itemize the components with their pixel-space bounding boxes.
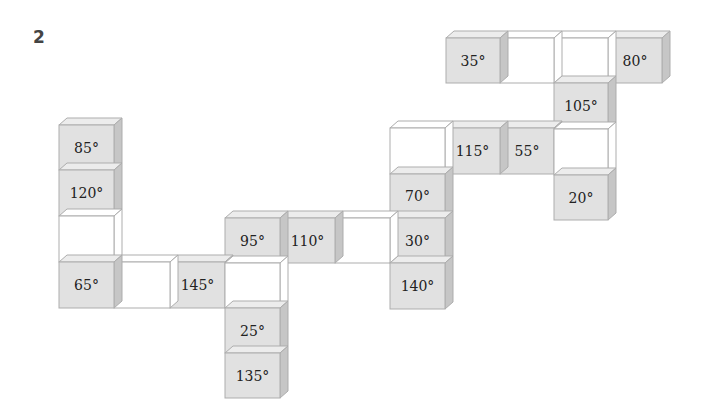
angle-cube: 95° bbox=[225, 211, 288, 263]
cube-top-face bbox=[59, 255, 122, 262]
cube-top-face bbox=[390, 121, 453, 128]
cube-top-face bbox=[608, 31, 670, 38]
angle-label: 110° bbox=[291, 233, 325, 249]
angle-label: 140° bbox=[401, 278, 435, 294]
cube-top-face bbox=[445, 121, 508, 128]
angle-cube: 135° bbox=[225, 346, 288, 398]
angle-label: 25° bbox=[240, 323, 265, 339]
blank-cube bbox=[554, 122, 616, 175]
angle-label: 95° bbox=[240, 233, 265, 249]
cube-side-face bbox=[608, 122, 616, 175]
cube-side-face bbox=[500, 121, 508, 174]
blank-cube bbox=[335, 211, 398, 263]
cube-top-face bbox=[59, 209, 122, 216]
cube-top-face bbox=[225, 256, 288, 263]
angle-label: 135° bbox=[236, 368, 270, 384]
cube-side-face bbox=[445, 121, 453, 174]
cube-side-face bbox=[390, 211, 398, 263]
angle-cube: 85° bbox=[59, 118, 122, 170]
cube-top-face bbox=[554, 76, 616, 83]
cube-top-face bbox=[225, 301, 288, 308]
blank-cube bbox=[500, 31, 562, 83]
cube-top-face bbox=[225, 346, 288, 353]
cube-side-face bbox=[280, 256, 288, 308]
angle-cube: 65° bbox=[59, 255, 122, 308]
cube-side-face bbox=[170, 255, 178, 308]
cube-side-face bbox=[114, 255, 122, 308]
angle-label: 115° bbox=[456, 143, 490, 159]
cube-side-face bbox=[445, 211, 453, 263]
angle-label: 20° bbox=[569, 190, 594, 206]
angle-label: 80° bbox=[623, 53, 648, 69]
cube-side-face bbox=[280, 211, 288, 263]
cube-top-face bbox=[59, 163, 122, 170]
angle-cube: 25° bbox=[225, 301, 288, 353]
cube-top-face bbox=[225, 211, 288, 218]
angle-cube: 110° bbox=[280, 211, 343, 263]
cube-top-face bbox=[280, 211, 343, 218]
cube-top-face bbox=[554, 168, 616, 175]
angle-cube: 115° bbox=[445, 121, 508, 174]
blank-cube bbox=[554, 31, 616, 83]
cube-top-face bbox=[335, 211, 398, 218]
angle-label: 120° bbox=[70, 185, 104, 201]
cube-side-face bbox=[114, 209, 122, 262]
angle-label: 55° bbox=[515, 143, 540, 159]
cube-top-face bbox=[500, 31, 562, 38]
angle-cube: 140° bbox=[390, 256, 453, 309]
angle-cube: 80° bbox=[608, 31, 670, 83]
cube-side-face bbox=[608, 168, 616, 220]
cube-top-face bbox=[114, 255, 178, 262]
blank-cube bbox=[390, 121, 453, 174]
angle-cube: 35° bbox=[446, 31, 508, 83]
cube-side-face bbox=[608, 31, 616, 83]
angle-cube: 20° bbox=[554, 168, 616, 220]
angle-label: 35° bbox=[461, 53, 486, 69]
cube-net-diagram: 80°35°105°85°55°115°120°70°20°30°110°95°… bbox=[0, 0, 710, 417]
angle-label: 65° bbox=[74, 277, 99, 293]
angle-cube: 55° bbox=[500, 121, 562, 174]
cube-side-face bbox=[280, 346, 288, 398]
angle-cube: 70° bbox=[390, 167, 453, 218]
cube-top-face bbox=[390, 167, 453, 174]
angle-label: 30° bbox=[405, 233, 430, 249]
cube-top-face bbox=[390, 256, 453, 263]
angle-label: 70° bbox=[405, 188, 430, 204]
angle-label: 85° bbox=[74, 140, 99, 156]
angle-cube: 105° bbox=[554, 76, 616, 129]
cube-side-face bbox=[500, 31, 508, 83]
cube-side-face bbox=[114, 118, 122, 170]
cube-side-face bbox=[445, 256, 453, 309]
cube-top-face bbox=[554, 31, 616, 38]
cube-top-face bbox=[554, 122, 616, 129]
blank-cube bbox=[225, 256, 288, 308]
cube-side-face bbox=[662, 31, 670, 83]
blank-cube bbox=[114, 255, 178, 308]
cube-side-face bbox=[608, 76, 616, 129]
angle-cube: 120° bbox=[59, 163, 122, 216]
angle-cube: 145° bbox=[170, 255, 233, 308]
cube-side-face bbox=[114, 163, 122, 216]
angle-label: 145° bbox=[181, 277, 215, 293]
angle-label: 105° bbox=[564, 98, 598, 114]
cube-side-face bbox=[280, 301, 288, 353]
cube-top-face bbox=[446, 31, 508, 38]
cube-top-face bbox=[500, 121, 562, 128]
cube-side-face bbox=[554, 31, 562, 83]
angle-cube: 30° bbox=[390, 211, 453, 263]
cube-top-face bbox=[59, 118, 122, 125]
blank-cube bbox=[59, 209, 122, 262]
cube-top-face bbox=[170, 255, 233, 262]
cube-side-face bbox=[445, 167, 453, 218]
cube-top-face bbox=[390, 211, 453, 218]
cube-side-face bbox=[335, 211, 343, 263]
